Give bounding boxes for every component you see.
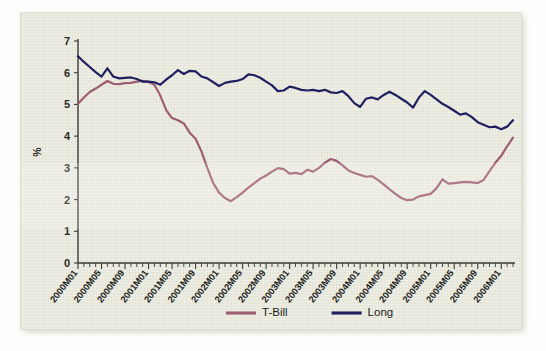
legend-label: T-Bill (262, 306, 288, 318)
line-chart-svg: 01234567 2000M012000M052000M092001M01200… (21, 13, 521, 329)
x-axis: 2000M012000M052000M092001M012001M052001M… (48, 263, 515, 304)
chart-legend: T-BillLong (226, 306, 393, 318)
series-line-t-bill (78, 81, 513, 201)
series-layer (78, 56, 513, 201)
series-line-long (78, 56, 513, 129)
y-tick-label: 0 (64, 257, 70, 269)
y-tick-label: 5 (64, 98, 70, 110)
chart-screenshot: 01234567 2000M012000M052000M092001M01200… (0, 0, 546, 351)
y-tick-label: 6 (64, 67, 70, 79)
plot-area: 01234567 2000M012000M052000M092001M01200… (21, 13, 521, 329)
y-axis: 01234567 (64, 35, 78, 269)
y-axis-title: % (31, 147, 43, 157)
y-tick-label: 1 (64, 225, 70, 237)
y-tick-label: 7 (64, 35, 70, 47)
chart-panel: 01234567 2000M012000M052000M092001M01200… (20, 12, 522, 330)
y-tick-label: 2 (64, 194, 70, 206)
y-tick-label: 3 (64, 162, 70, 174)
legend-label: Long (368, 306, 394, 318)
y-tick-label: 4 (64, 130, 71, 142)
